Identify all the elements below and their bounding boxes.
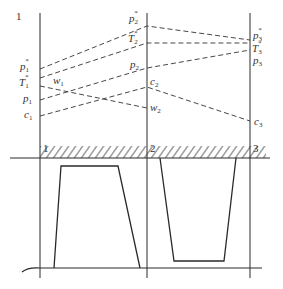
station-label-1-top: 1 xyxy=(16,10,22,22)
station-label-2: 2 xyxy=(150,142,156,154)
dashed-line-w xyxy=(40,86,147,108)
dashed-lines xyxy=(40,26,250,121)
station-label-1: 1 xyxy=(43,142,49,154)
flow-diagram: 1 1 2 3 p1* T1* p1 c1 w1 p2* T2* p2 c2 w… xyxy=(0,0,283,289)
label-p1: p1 xyxy=(22,92,33,106)
label-w1: w1 xyxy=(53,74,64,88)
trapezoid-fin-1 xyxy=(54,166,140,268)
trapezoid-cavity-2 xyxy=(160,158,236,261)
station-label-3: 3 xyxy=(253,142,259,154)
label-p3: p3 xyxy=(252,54,263,68)
label-w2: w2 xyxy=(150,101,161,115)
bottom-line xyxy=(22,268,262,272)
label-c3: c3 xyxy=(254,115,263,129)
label-c1: c1 xyxy=(24,108,33,122)
label-c2: c2 xyxy=(150,75,159,89)
label-p2: p2 xyxy=(129,58,140,72)
label-T2-star: T2* xyxy=(128,29,138,46)
label-T1-star: T1* xyxy=(19,73,29,90)
label-p2-star: p2* xyxy=(128,9,139,26)
dashed-line-p-star xyxy=(40,26,250,69)
label-p1-star: p1* xyxy=(19,57,30,74)
dashed-line-T-star xyxy=(40,43,250,78)
